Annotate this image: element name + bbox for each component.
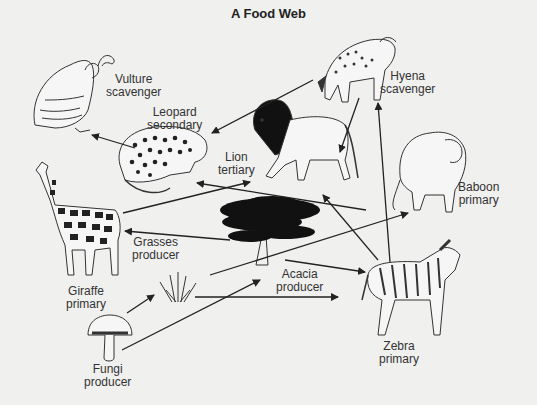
- arrow-fungi-to-grasses: [127, 295, 154, 313]
- leopard-icon: [119, 126, 207, 192]
- label-zebra: Zebra primary: [379, 340, 419, 366]
- zebra-role: primary: [379, 353, 419, 366]
- grasses-role: producer: [132, 249, 179, 262]
- baboon-role: primary: [458, 194, 499, 207]
- lion-icon: [254, 100, 358, 180]
- acacia-role: producer: [276, 281, 323, 294]
- food-web-diagram: [0, 0, 537, 405]
- grasses-icon: [160, 272, 196, 302]
- label-grasses: Grasses producer: [132, 236, 179, 262]
- vulture-icon: [34, 55, 114, 132]
- acacia-icon: [220, 196, 320, 265]
- fungi-role: producer: [84, 376, 131, 389]
- label-vulture: Vulture scavenger: [106, 73, 161, 99]
- label-hyena: Hyena scavenger: [380, 70, 435, 96]
- arrow-zebra-to-lion: [323, 195, 378, 260]
- label-lion: Lion tertiary: [218, 151, 255, 177]
- hyena-role: scavenger: [380, 83, 435, 96]
- label-baboon: Baboon primary: [458, 181, 499, 207]
- leopard-role: secondary: [147, 119, 202, 132]
- label-fungi: Fungi producer: [84, 363, 131, 389]
- label-giraffe: Giraffe primary: [66, 285, 106, 311]
- giraffe-icon: [36, 162, 120, 275]
- vulture-role: scavenger: [106, 86, 161, 99]
- label-acacia: Acacia producer: [276, 268, 323, 294]
- fungi-icon: [88, 315, 132, 361]
- baboon-icon: [393, 132, 466, 212]
- zebra-icon: [362, 240, 460, 335]
- lion-role: tertiary: [218, 164, 255, 177]
- arrow-zebra-to-hyena: [378, 103, 390, 262]
- label-leopard: Leopard secondary: [147, 106, 202, 132]
- giraffe-role: primary: [66, 298, 106, 311]
